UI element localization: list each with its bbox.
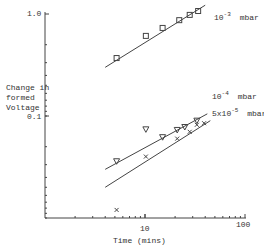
- series-label-exponent: -4: [222, 90, 229, 97]
- y-axis-title-line-3: Voltage: [6, 103, 40, 112]
- y-tick-label-0-1: 0.1: [27, 112, 41, 121]
- y-axis-title-line-2: formed: [6, 93, 35, 102]
- square-marker-icon: [143, 33, 148, 38]
- y-tick-label-1: 1.0: [27, 9, 41, 18]
- y-axis-title-line-1: Change in: [6, 83, 49, 92]
- fit-lines: [105, 5, 210, 187]
- series-label-unit: mbar: [238, 92, 257, 101]
- fit-line: [105, 5, 205, 67]
- series-label-1e-3: 10-3 mbar: [214, 10, 259, 22]
- triangle-marker-icon: [143, 127, 149, 133]
- series-label-unit: mbar: [240, 13, 259, 22]
- x-marker-icon: [115, 208, 119, 212]
- x-marker-icon: [175, 137, 179, 141]
- series-label-exponent: -3: [224, 11, 231, 18]
- series-label-1e-4: 10-4 mbar: [212, 89, 257, 101]
- x-tick-label-100: 100: [236, 220, 250, 229]
- data-markers: [114, 9, 207, 212]
- fit-line: [105, 121, 210, 188]
- series-label-unit: mbar: [247, 109, 264, 118]
- fit-line: [105, 114, 207, 169]
- x-marker-icon: [144, 155, 148, 159]
- series-label-base: 10: [214, 13, 224, 22]
- series-label-base: 5x10: [212, 109, 231, 118]
- chart-canvas: [0, 0, 264, 245]
- square-marker-icon: [160, 25, 165, 30]
- x-axis-title: Time (mins): [113, 236, 166, 245]
- series-label-5e-5: 5x10-5 mbar: [212, 106, 264, 118]
- x-tick-label-10: 10: [140, 224, 150, 233]
- series-label-exponent: -5: [231, 107, 238, 114]
- series-label-base: 10: [212, 92, 222, 101]
